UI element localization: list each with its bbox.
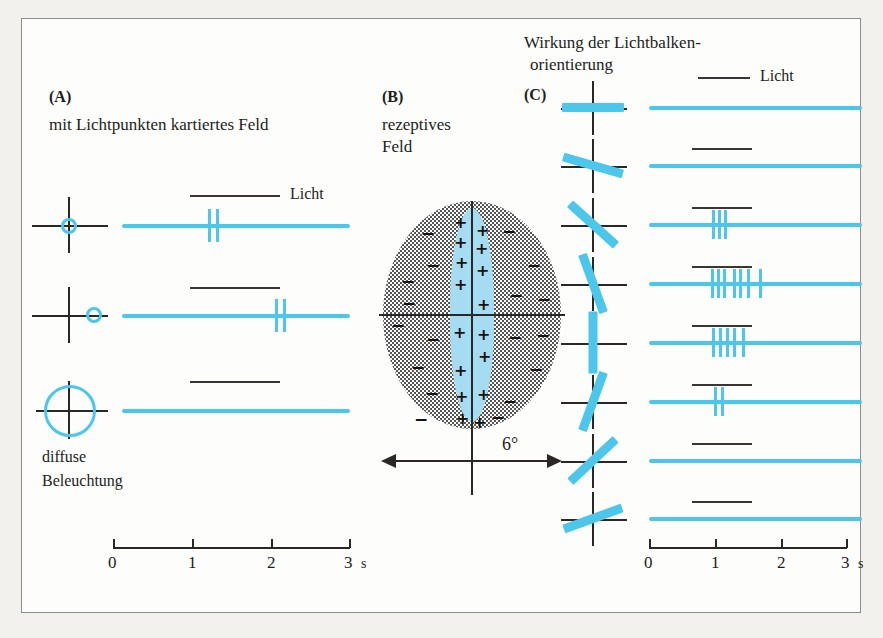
rf-minus-symbol: −	[414, 411, 428, 428]
axis-tick	[781, 539, 783, 548]
axis-line	[649, 547, 847, 549]
spike-mark	[283, 299, 286, 332]
light-on-bar	[692, 266, 752, 268]
panel-a-light-legend-label: Licht	[290, 184, 324, 204]
rf-minus-symbol: −	[509, 287, 523, 304]
spike-mark	[724, 210, 727, 239]
rf-plus-symbol: +	[454, 235, 467, 251]
rf-minus-symbol: −	[421, 225, 435, 242]
spike-mark	[726, 328, 729, 357]
scale-axis-vertical	[471, 437, 473, 495]
rf-plus-symbol: +	[473, 415, 486, 431]
axis-tick-label: 0	[644, 553, 653, 574]
spike-trace	[122, 409, 350, 413]
spike-trace	[649, 341, 862, 345]
rf-minus-symbol: −	[391, 317, 405, 334]
spike-mark	[714, 387, 717, 416]
light-on-bar	[692, 148, 752, 150]
spike-mark	[208, 209, 211, 242]
axis-tick-label: 3	[344, 553, 353, 574]
spike-trace	[649, 106, 862, 110]
scale-arrowhead-right	[547, 454, 562, 468]
spike-mark	[718, 210, 721, 239]
axis-tick-label: 1	[188, 553, 197, 574]
rf-plus-symbol: +	[477, 327, 490, 343]
spike-trace	[649, 459, 862, 463]
rf-plus-symbol: +	[455, 255, 468, 271]
rf-plus-symbol: +	[475, 241, 488, 257]
axis-line	[113, 547, 350, 549]
axis-tick-label: 2	[267, 553, 276, 574]
rf-minus-symbol: −	[502, 223, 516, 240]
spike-mark	[216, 209, 219, 242]
panel-c-heading-line1: Wirkung der Lichtbalken-	[524, 33, 701, 54]
axis-tick	[846, 539, 848, 548]
rf-plus-symbol: +	[476, 263, 489, 279]
panel-a-bottom-label-line1: diffuse	[42, 447, 86, 467]
light-on-bar	[692, 325, 752, 327]
light-on-bar	[692, 443, 752, 445]
spike-trace	[122, 314, 350, 318]
panel-a-light-legend-line	[190, 195, 280, 197]
rf-minus-symbol: −	[402, 295, 416, 312]
spike-mark	[733, 328, 736, 357]
panel-b-letter: (B)	[382, 87, 403, 107]
spike-trace	[649, 517, 862, 521]
axis-unit-label: s	[858, 555, 863, 572]
spike-mark	[712, 210, 715, 239]
spike-mark	[711, 269, 714, 298]
axis-tick	[271, 539, 273, 548]
light-on-bar	[692, 207, 752, 209]
figure-frame: (A) mit Lichtpunkten kartiertes Feld Lic…	[21, 18, 861, 613]
rf-plus-symbol: +	[454, 277, 467, 293]
axis-tick	[649, 539, 651, 548]
spike-mark	[712, 328, 715, 357]
rf-minus-symbol: −	[426, 331, 440, 348]
spike-mark	[759, 269, 762, 298]
panel-b-heading-line1: rezeptives	[382, 115, 451, 136]
rf-minus-symbol: −	[411, 359, 425, 376]
rf-axis-vertical	[471, 201, 473, 443]
panel-a-heading: mit Lichtpunkten kartiertes Feld	[49, 115, 269, 136]
light-on-bar-row3	[190, 381, 280, 383]
axis-tick	[192, 539, 194, 548]
spike-mark	[275, 299, 278, 332]
light-spot-icon	[86, 307, 102, 323]
axis-tick-label: 3	[841, 553, 850, 574]
spike-trace	[649, 400, 862, 404]
light-on-bar-row2	[190, 287, 280, 289]
rf-plus-symbol: +	[478, 349, 491, 365]
spike-mark	[739, 269, 742, 298]
light-spot-icon	[61, 218, 77, 234]
light-bar-icon	[589, 312, 598, 374]
rf-minus-symbol: −	[401, 273, 415, 290]
panel-c-heading-line2: orientierung	[530, 55, 613, 76]
rf-plus-symbol: +	[453, 325, 466, 341]
figure-canvas: (A) mit Lichtpunkten kartiertes Feld Lic…	[0, 0, 883, 638]
spike-mark	[747, 269, 750, 298]
rf-plus-symbol: +	[456, 411, 469, 427]
rf-minus-symbol: −	[425, 385, 439, 402]
rf-minus-symbol: −	[491, 409, 505, 426]
rf-minus-symbol: −	[508, 329, 522, 346]
axis-tick-label: 0	[108, 553, 117, 574]
rf-plus-symbol: +	[476, 223, 489, 239]
panel-a-bottom-label-line2: Beleuchtung	[42, 471, 123, 491]
axis-tick-label: 1	[711, 553, 720, 574]
rf-plus-symbol: +	[454, 215, 467, 231]
axis-tick	[715, 539, 717, 548]
rf-minus-symbol: −	[503, 393, 517, 410]
spike-mark	[733, 269, 736, 298]
light-on-bar	[692, 501, 752, 503]
scale-arrowhead-left	[381, 454, 396, 468]
axis-tick	[349, 539, 351, 548]
rf-plus-symbol: +	[455, 389, 468, 405]
axis-unit-label: s	[361, 555, 366, 572]
rf-plus-symbol: +	[454, 363, 467, 379]
spike-trace	[649, 164, 862, 168]
panel-b-scale-label: 6°	[502, 434, 518, 456]
panel-a-letter: (A)	[49, 87, 71, 107]
panel-c-letter: (C)	[524, 85, 546, 105]
rf-minus-symbol: −	[426, 257, 440, 274]
panel-c-light-legend-label: Licht	[760, 66, 794, 86]
